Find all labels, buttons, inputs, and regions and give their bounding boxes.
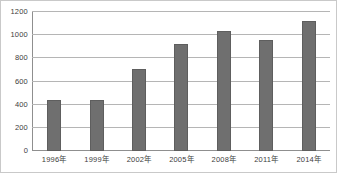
x-axis-category-labels: 1996年1999年2002年2005年2008年2011年2014年 <box>33 153 330 164</box>
bar-chart: 020040060080010001200 1996年1999年2002年200… <box>0 0 337 173</box>
bar-slot <box>75 12 117 151</box>
x-axis-category-label: 2011年 <box>245 153 287 164</box>
bar-slot <box>160 12 202 151</box>
x-axis-category-label: 2005年 <box>160 153 202 164</box>
x-axis-category-label: 1996年 <box>33 153 75 164</box>
bars-group <box>33 12 330 151</box>
y-axis-tick-label: 1200 <box>11 7 29 16</box>
y-axis-tick-label: 400 <box>15 99 28 108</box>
bar <box>259 40 273 151</box>
plot-area: 020040060080010001200 <box>32 12 330 151</box>
x-axis-category-label: 2008年 <box>203 153 245 164</box>
bar-slot <box>203 12 245 151</box>
y-axis-tick-label: 800 <box>15 53 28 62</box>
bar-slot <box>245 12 287 151</box>
bar <box>132 69 146 151</box>
bar-slot <box>288 12 330 151</box>
bar <box>47 100 61 151</box>
bar <box>217 31 231 151</box>
y-axis-tick-label: 600 <box>15 76 28 85</box>
bar <box>302 21 316 151</box>
x-axis-category-label: 2014年 <box>288 153 330 164</box>
bar <box>90 100 104 151</box>
bar-slot <box>118 12 160 151</box>
y-axis-tick-label: 0 <box>24 146 28 155</box>
bar-slot <box>33 12 75 151</box>
y-axis-tick-label: 200 <box>15 122 28 131</box>
x-axis-category-label: 1999年 <box>75 153 117 164</box>
x-axis-category-label: 2002年 <box>118 153 160 164</box>
y-axis-tick-label: 1000 <box>11 30 29 39</box>
bar <box>174 44 188 151</box>
